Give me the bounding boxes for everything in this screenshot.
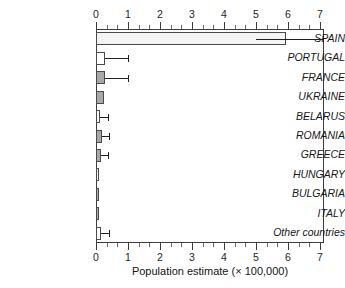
error-bar-other-countries [101, 233, 109, 234]
bot-axis-tick-label: 0 [84, 251, 108, 263]
top-axis-major-tick [128, 22, 129, 29]
bot-axis-major-tick [160, 243, 161, 250]
category-label-france: FRANCE [253, 71, 345, 83]
bot-axis-minor-tick [117, 243, 118, 247]
bot-axis-minor-tick [267, 243, 268, 247]
top-axis-major-tick [96, 22, 97, 29]
top-axis-major-tick [320, 22, 321, 29]
error-bar-cap-portugal [128, 55, 129, 62]
top-axis-major-tick [160, 22, 161, 29]
error-bar-portugal [105, 58, 128, 59]
bot-axis-tick-label: 2 [148, 251, 172, 263]
error-bar-belarus [100, 117, 108, 118]
bar-ukraine [96, 91, 104, 104]
bot-axis-minor-tick [235, 243, 236, 247]
category-label-portugal: PORTUGAL [253, 51, 345, 63]
bot-axis-major-tick [192, 243, 193, 250]
top-axis-major-tick [224, 22, 225, 29]
bot-axis-major-tick [320, 243, 321, 250]
category-label-ukraine: UKRAINE [253, 90, 345, 102]
bot-axis-major-tick [96, 243, 97, 250]
bot-axis-tick-label: 3 [180, 251, 204, 263]
bar-italy [96, 207, 99, 220]
bot-axis-tick-label: 6 [276, 251, 300, 263]
top-axis-tick-label: 6 [276, 8, 300, 20]
category-label-belarus: BELARUS [253, 110, 345, 122]
bot-axis-minor-tick [139, 243, 140, 247]
bar-bulgaria [96, 188, 99, 201]
bot-axis-minor-tick [149, 243, 150, 247]
bot-axis-minor-tick [203, 243, 204, 247]
top-axis-tick-label: 3 [180, 8, 204, 20]
error-bar-cap-belarus [108, 114, 109, 121]
error-bar-cap-romania [109, 133, 110, 140]
bot-axis-tick-label: 4 [212, 251, 236, 263]
category-label-greece: GREECE [253, 148, 345, 160]
x-axis-title: Population estimate (× 100,000) [96, 265, 324, 277]
top-axis-tick-label: 7 [308, 8, 332, 20]
bot-axis-minor-tick [171, 243, 172, 247]
top-axis-major-tick [256, 22, 257, 29]
error-bar-cap-spain [323, 36, 324, 43]
category-label-other-countries: Other countries [253, 226, 345, 238]
category-label-romania: ROMANIA [253, 129, 345, 141]
bot-axis-minor-tick [213, 243, 214, 247]
category-label-italy: ITALY [253, 207, 345, 219]
bot-axis-minor-tick [245, 243, 246, 247]
top-axis-tick-label: 2 [148, 8, 172, 20]
top-axis-tick-label: 0 [84, 8, 108, 20]
bot-axis-tick-label: 5 [244, 251, 268, 263]
bot-axis-major-tick [288, 243, 289, 250]
top-axis-tick-label: 4 [212, 8, 236, 20]
bot-axis-tick-label: 1 [116, 251, 140, 263]
top-axis-major-tick [288, 22, 289, 29]
error-bar-greece [101, 155, 108, 156]
bot-axis-minor-tick [299, 243, 300, 247]
bot-axis-major-tick [224, 243, 225, 250]
error-bar-cap-france [128, 75, 129, 82]
bot-axis-minor-tick [181, 243, 182, 247]
error-bar-romania [102, 136, 109, 137]
top-axis-major-tick [192, 22, 193, 29]
bot-axis-major-tick [128, 243, 129, 250]
bar-chart: 01234567 SPAINPORTUGALFRANCEUKRAINEBELAR… [0, 0, 345, 288]
bot-axis-minor-tick [107, 243, 108, 247]
bar-france [96, 71, 105, 84]
bot-axis-minor-tick [277, 243, 278, 247]
top-axis-tick-label: 5 [244, 8, 268, 20]
error-bar-cap-other-countries [109, 230, 110, 237]
bot-axis-major-tick [256, 243, 257, 250]
bot-axis-tick-label: 7 [308, 251, 332, 263]
bar-portugal [96, 52, 105, 65]
category-label-bulgaria: BULGARIA [253, 187, 345, 199]
bot-axis-minor-tick [309, 243, 310, 247]
top-axis-tick-label: 1 [116, 8, 140, 20]
bar-hungary [96, 168, 99, 181]
error-bar-france [105, 78, 128, 79]
error-bar-spain [256, 39, 323, 40]
error-bar-cap-greece [108, 152, 109, 159]
category-label-hungary: HUNGARY [253, 168, 345, 180]
